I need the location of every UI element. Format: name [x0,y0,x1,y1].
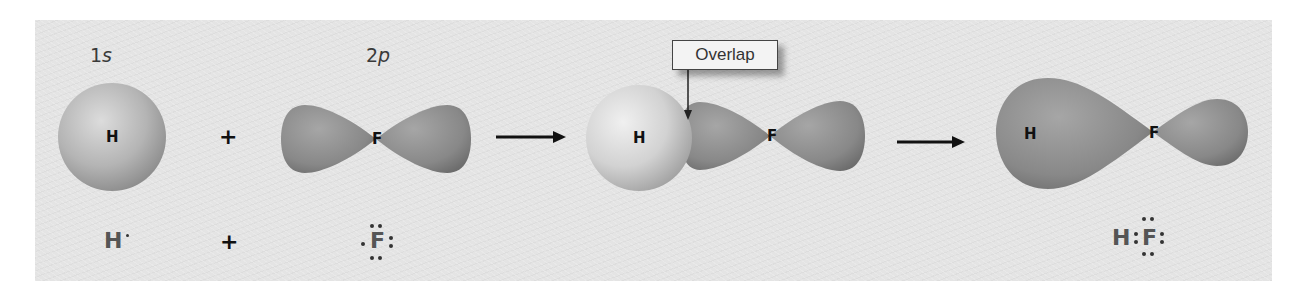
overlap-callout: Overlap [672,40,778,70]
f-atom-label-hf: F [1149,124,1159,142]
lewis-hf-f: F [1142,225,1157,250]
f-2p-left-lobe-overlap [680,102,770,170]
lewis-h-electron [126,234,129,237]
lewis-hf-bond-electron-1 [1134,232,1138,236]
f-atom-label: F [372,130,382,148]
lewis-f-electron-right2 [389,244,393,248]
h-atom-label: H [106,128,119,146]
lewis-hf-f-bottom1 [1142,252,1146,256]
lewis-hf-f-top2 [1150,217,1154,221]
h-atom-label-hf: H [1024,125,1037,143]
f-2p-right-lobe [376,105,471,173]
lewis-f-electron-top2 [378,224,382,228]
lewis-f-electron-bottom2 [378,256,382,260]
lewis-f-electron-top1 [370,224,374,228]
lewis-hf-f-right2 [1160,240,1164,244]
lewis-f: F [370,228,385,253]
lewis-f-electron-bottom1 [370,256,374,260]
h-orbital-label: 1s [90,44,112,66]
lewis-f-electron-right1 [389,236,393,240]
arrow-head-2 [952,136,965,148]
lewis-hf-bond-electron-2 [1134,240,1138,244]
lewis-hf-f-right1 [1160,232,1164,236]
lewis-hf-f-bottom2 [1150,252,1154,256]
lewis-f-electron-left [361,242,365,246]
f-orbital-label: 2p [366,44,390,66]
hf-bonding-large-lobe [996,78,1153,189]
lewis-hf-h: H [1112,225,1130,250]
f-atom-label-overlap: F [767,127,777,145]
f-2p-left-lobe [281,105,376,173]
orbital-graphics [0,0,1304,296]
lewis-hf-f-top1 [1142,217,1146,221]
f-2p-right-lobe-overlap [770,101,865,171]
arrow-head-1 [553,131,566,143]
plus-sign-1: + [219,124,237,149]
hf-small-lobe [1153,99,1248,166]
plus-sign-2: + [220,229,238,254]
h-atom-label-overlap: H [633,129,646,147]
lewis-h: H [104,228,122,253]
